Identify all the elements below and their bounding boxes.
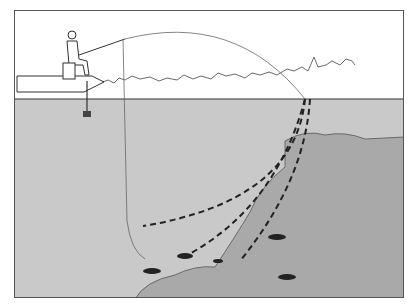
fish bbox=[213, 259, 223, 263]
boat-seat bbox=[63, 63, 75, 79]
fish bbox=[177, 253, 193, 259]
fish bbox=[278, 274, 296, 280]
fishing-rod bbox=[79, 39, 125, 55]
boat bbox=[17, 76, 104, 92]
fish bbox=[268, 234, 286, 240]
fishing-scene bbox=[15, 11, 404, 298]
angler-head bbox=[68, 31, 76, 39]
cast-line bbox=[125, 32, 305, 99]
trolling-motor-head bbox=[83, 111, 91, 117]
illustration-frame bbox=[14, 10, 404, 298]
tree-line bbox=[100, 57, 355, 83]
fish bbox=[143, 268, 161, 274]
